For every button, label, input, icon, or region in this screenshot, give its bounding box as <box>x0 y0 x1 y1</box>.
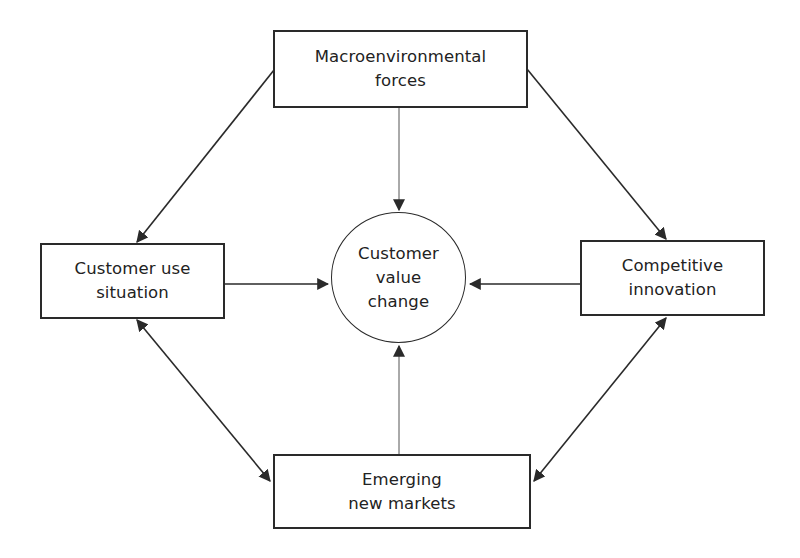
arrow-macro-to-competitive <box>527 69 666 239</box>
node-competitive-innovation: Competitive innovation <box>580 240 765 316</box>
arrow-macro-to-customer-use <box>137 70 274 242</box>
node-label: Customer use situation <box>75 257 191 305</box>
customer-value-change-diagram: Macroenvironmental forces Customer use s… <box>0 0 800 558</box>
arrow-competitive-emerging-bidirectional <box>534 318 666 481</box>
node-label: Macroenvironmental forces <box>315 45 487 93</box>
node-macroenvironmental-forces: Macroenvironmental forces <box>273 30 528 108</box>
node-emerging-new-markets: Emerging new markets <box>273 454 531 529</box>
node-label: Competitive innovation <box>622 254 723 302</box>
arrow-customer-use-emerging-bidirectional <box>137 320 270 481</box>
node-label: Customer value change <box>358 242 439 314</box>
node-customer-value-change: Customer value change <box>331 212 466 343</box>
node-label: Emerging new markets <box>348 468 456 516</box>
node-customer-use-situation: Customer use situation <box>40 243 225 319</box>
